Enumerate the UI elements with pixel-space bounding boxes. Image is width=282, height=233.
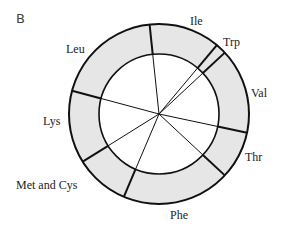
label-trp: Trp	[223, 35, 240, 49]
label-met-cys: Met and Cys	[16, 178, 78, 192]
label-lys: Lys	[43, 114, 61, 128]
amino-acid-wheel: Ile Trp Val Thr Phe Met and Cys Lys Leu	[0, 0, 282, 233]
label-phe: Phe	[170, 208, 188, 222]
label-ile: Ile	[190, 14, 203, 28]
label-leu: Leu	[66, 42, 85, 56]
label-thr: Thr	[245, 150, 262, 164]
label-val: Val	[251, 86, 268, 100]
